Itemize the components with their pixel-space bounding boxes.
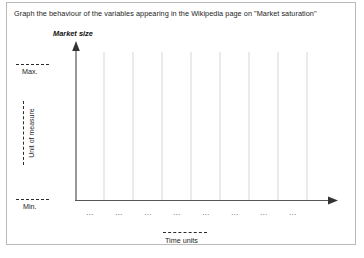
x-tick-placeholder: ...	[86, 209, 94, 216]
unit-of-measure-label: Unit of measure	[28, 96, 35, 170]
x-tick-placeholder: ...	[202, 209, 210, 216]
x-tick-placeholder: ...	[260, 209, 268, 216]
max-level-label: Max.	[22, 67, 38, 76]
x-tick-placeholder: ...	[289, 209, 297, 216]
y-axis-title: Market size	[53, 29, 93, 38]
x-tick-placeholder: ...	[115, 209, 123, 216]
x-tick-placeholder: ...	[231, 209, 239, 216]
x-axis-title-dashed-line	[163, 232, 207, 233]
worksheet-page: Graph the behaviour of the variables app…	[0, 0, 364, 258]
task-prompt: Graph the behaviour of the variables app…	[14, 9, 344, 19]
x-tick-placeholder: ...	[144, 209, 152, 216]
min-level-dashed-line	[16, 199, 49, 200]
worksheet-frame	[6, 2, 356, 245]
x-tick-placeholder: ...	[173, 209, 181, 216]
x-axis-title: Time units	[165, 236, 198, 245]
unit-of-measure-dashed-line	[23, 101, 24, 165]
max-level-dashed-line	[16, 64, 49, 65]
min-level-label: Min.	[23, 202, 37, 211]
